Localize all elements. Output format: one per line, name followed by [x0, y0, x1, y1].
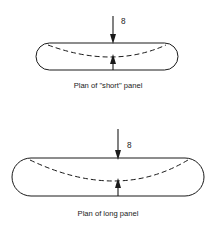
long-panel-load-symbol: 8	[127, 141, 132, 150]
figure-container: 8 Plan of "short" panel 8 Plan o	[0, 0, 217, 225]
short-panel-caption: Plan of "short" panel	[74, 81, 143, 90]
short-panel-load-symbol: 8	[121, 17, 126, 26]
short-panel-load-arrow	[110, 16, 116, 44]
long-panel-load-arrow	[115, 129, 121, 160]
short-panel-diagram: 8 Plan of "short" panel	[36, 16, 178, 90]
long-panel-caption: Plan of long panel	[78, 209, 139, 218]
long-panel-diagram: 8 Plan of long panel	[12, 129, 204, 218]
panel-plans-figure: 8 Plan of "short" panel 8 Plan o	[0, 0, 217, 225]
long-panel-outline	[12, 158, 204, 196]
